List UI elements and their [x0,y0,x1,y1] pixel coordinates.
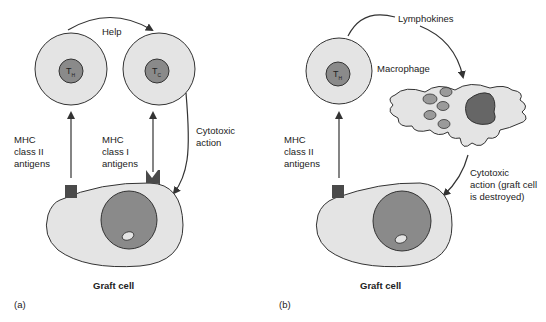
graft-label-a: Graft cell [93,280,134,292]
help-label: Help [102,26,122,38]
granule [438,120,450,129]
panel-label-b: (b) [279,299,291,311]
lymphokines-label: Lymphokines [398,13,454,25]
mhc1-label-a: MHCclass Iantigens [102,134,138,170]
cytotoxic-label-b: Cytotoxicaction (graft cellis destroyed) [470,167,537,203]
tc-label-a: TC [152,65,161,81]
mhc2-label-b: MHCclass IIantigens [284,134,320,170]
granule [440,88,452,97]
macrophage [390,84,526,146]
diagram-canvas [0,0,546,322]
mhc2-antigen-b [332,185,344,198]
mhc1-antigen-a [146,170,160,184]
granule [423,94,437,104]
granule [437,102,449,111]
mhc2-antigen-a [65,185,77,198]
th-label-b: TH [333,68,342,84]
macrophage-label: Macrophage [377,63,430,75]
cytotoxic-arrow-a [174,93,188,193]
granule [424,111,436,120]
panel-label-a: (a) [14,299,26,311]
mhc2-label-a: MHCclass IIantigens [14,134,50,170]
cytotoxic-label-a: Cytotoxicaction [196,125,235,149]
graft-label-b: Graft cell [360,280,401,292]
lymphokines-line [348,15,395,36]
th-label-a: TH [66,65,75,81]
cytotoxic-arrow-b [444,155,468,195]
